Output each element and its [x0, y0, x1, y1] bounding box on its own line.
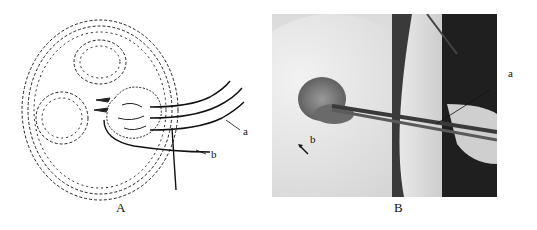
clinical-photograph: [272, 14, 497, 197]
photo-label-a: a: [508, 67, 513, 79]
panel-caption-b: B: [394, 200, 403, 216]
figure-panel-a: a b A: [0, 0, 265, 230]
photo-illustration: [272, 14, 497, 197]
panel-caption-a: A: [116, 200, 125, 216]
photo-label-b: b: [310, 133, 316, 145]
label-b: b: [211, 148, 217, 160]
label-a: a: [243, 125, 248, 137]
circular-anatomy-drawing: [0, 0, 265, 230]
